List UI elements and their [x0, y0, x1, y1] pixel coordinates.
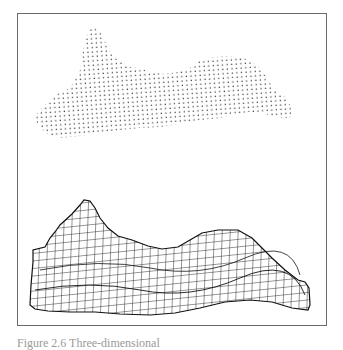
point-cloud-panel	[25, 20, 305, 145]
figure-caption: Figure 2.6 Three-dimensional	[17, 337, 160, 349]
wireframe-mesh-panel	[25, 195, 315, 320]
